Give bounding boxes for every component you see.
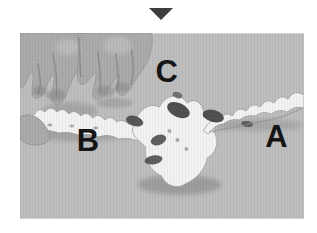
left-hand-highlight — [56, 39, 80, 55]
label-b: B — [77, 123, 99, 158]
spine-model-photo: A B C — [20, 33, 304, 219]
figure-page: A B C — [0, 0, 317, 233]
label-a: A — [265, 119, 287, 154]
down-triangle-icon — [148, 8, 174, 21]
down-triangle-shape — [149, 8, 173, 20]
spine-model-photo-scene: A B C — [20, 33, 304, 219]
label-c: C — [156, 54, 178, 89]
top-hand-highlight — [104, 36, 132, 54]
fingertip-shadow-on-model — [97, 98, 133, 108]
